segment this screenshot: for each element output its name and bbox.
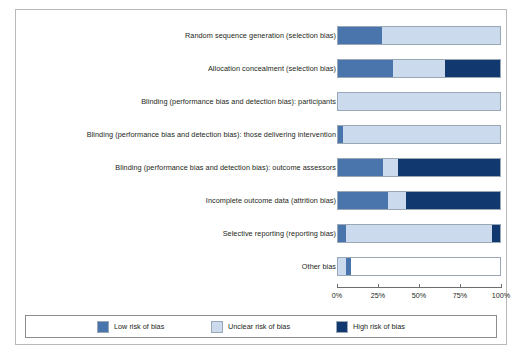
legend-item-high: High risk of bias xyxy=(336,316,405,337)
legend-item-low: Low risk of bias xyxy=(97,316,164,337)
bar-segment-low xyxy=(338,192,388,209)
bar-segment-low xyxy=(338,225,346,242)
bar-segment-unclear xyxy=(383,159,398,176)
legend-item-unclear: Unclear risk of bias xyxy=(211,316,290,337)
legend-label: High risk of bias xyxy=(353,322,405,331)
bias-row: Selective reporting (reporting bias) xyxy=(16,222,506,245)
bias-row: Random sequence generation (selection bi… xyxy=(16,24,506,47)
bias-row-label: Selective reporting (reporting bias) xyxy=(223,222,336,245)
bar-segment-low xyxy=(338,60,393,77)
x-axis-tick-label: 100% xyxy=(492,291,510,300)
bar-segment-low xyxy=(338,27,382,44)
bar-segment-unclear xyxy=(338,93,500,110)
legend-label: Unclear risk of bias xyxy=(228,322,290,331)
bias-row-label: Blinding (performance bias and detection… xyxy=(141,90,336,113)
legend-swatch-unclear xyxy=(211,321,223,333)
bias-row-bar xyxy=(337,125,501,144)
bar-segment-low xyxy=(338,159,383,176)
x-axis-tick xyxy=(378,284,379,288)
bias-row-label: Other bias xyxy=(302,255,336,278)
x-axis-tick xyxy=(419,284,420,288)
bias-row-bar xyxy=(337,224,501,243)
x-axis-tick-label: 25% xyxy=(371,291,385,300)
bias-row: Other bias xyxy=(16,255,506,278)
bias-row-label: Allocation concealment (selection bias) xyxy=(208,57,336,80)
bias-row: Blinding (performance bias and detection… xyxy=(16,123,506,146)
legend-label: Low risk of bias xyxy=(114,322,164,331)
x-axis-tick-label: 50% xyxy=(412,291,426,300)
bar-segment-unclear xyxy=(343,126,500,143)
bias-row: Blinding (performance bias and detection… xyxy=(16,156,506,179)
bar-segment-unclear xyxy=(393,60,445,77)
bias-row: Allocation concealment (selection bias) xyxy=(16,57,506,80)
risk-of-bias-figure: Random sequence generation (selection bi… xyxy=(15,9,507,345)
x-axis-tick xyxy=(460,284,461,288)
bias-row-bar xyxy=(337,257,501,276)
bar-segment-high xyxy=(406,192,500,209)
bar-segment-high xyxy=(445,60,500,77)
bias-row-bar xyxy=(337,191,501,210)
bias-row: Blinding (performance bias and detection… xyxy=(16,90,506,113)
bar-segment-unclear xyxy=(382,27,500,44)
chart-legend: Low risk of biasUnclear risk of biasHigh… xyxy=(25,315,497,338)
x-axis-tick xyxy=(501,284,502,288)
bar-segment-unclear xyxy=(388,192,406,209)
legend-swatch-high xyxy=(336,321,348,333)
x-axis: 0%25%50%75%100% xyxy=(337,287,501,309)
bias-row-label: Random sequence generation (selection bi… xyxy=(185,24,336,47)
x-axis-tick-label: 75% xyxy=(453,291,467,300)
x-axis-tick-label: 0% xyxy=(332,291,342,300)
bias-row-bar xyxy=(337,158,501,177)
bar-segment-high xyxy=(492,225,500,242)
bar-segment-unclear xyxy=(346,225,492,242)
risk-of-bias-plot: Random sequence generation (selection bi… xyxy=(16,10,506,292)
x-axis-tick xyxy=(337,284,338,288)
bias-row-bar xyxy=(337,26,501,45)
bar-segment-low xyxy=(346,258,351,275)
bar-segment-unclear xyxy=(338,258,346,275)
bias-row-bar xyxy=(337,59,501,78)
bar-segment-high xyxy=(398,159,500,176)
bias-row-bar xyxy=(337,92,501,111)
bias-row-label: Incomplete outcome data (attrition bias) xyxy=(206,189,336,212)
bias-row-label: Blinding (performance bias and detection… xyxy=(115,156,336,179)
bias-row: Incomplete outcome data (attrition bias) xyxy=(16,189,506,212)
legend-swatch-low xyxy=(97,321,109,333)
bias-row-label: Blinding (performance bias and detection… xyxy=(87,123,336,146)
